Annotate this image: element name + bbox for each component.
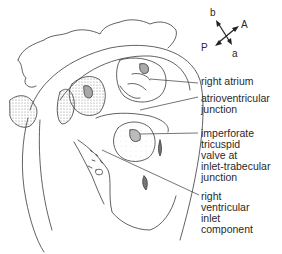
label-right-atrium: right atrium [201, 76, 254, 87]
orientation-label-A: A [241, 19, 248, 30]
leader-right-atrium [150, 79, 198, 83]
label-right-ventricular-inlet: right ventricular inlet component [201, 191, 253, 235]
anatomical-diagram: b A P a right atrium atrioventricular ju… [0, 0, 282, 254]
label-imperforate-tricuspid-valve: imperforate tricuspid valve at inlet-tra… [201, 128, 270, 183]
orientation-label-b: b [210, 7, 216, 18]
orientation-label-P: P [201, 42, 208, 53]
orientation-label-a: a [232, 48, 238, 59]
orientation-compass-icon [215, 20, 239, 46]
label-atrioventricular-junction: atrioventricular junction [201, 93, 270, 115]
